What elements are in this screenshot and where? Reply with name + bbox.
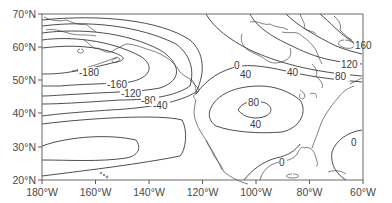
y-tick-label: 70°N — [13, 8, 36, 20]
x-tick-label: 60°W — [350, 186, 376, 198]
contour-labels: -180 -160 -120 -80 -40 0 40 80 40 40 160… — [78, 40, 374, 168]
x-tick-label: 160°W — [80, 186, 112, 198]
contour-label: 80 — [335, 71, 347, 82]
x-tick-label: 120°W — [187, 186, 219, 198]
coastlines — [44, 14, 362, 184]
contour-label: 120 — [341, 59, 358, 70]
contour-label: 40 — [240, 69, 252, 80]
contour-label: 40 — [287, 67, 299, 78]
x-axis: 180°W 160°W 140°W 120°W 100°W 80°W 60°W — [26, 180, 376, 198]
y-axis: 70°N 60°N 50°N 40°N 30°N 20°N — [13, 8, 42, 186]
contour-label: -180 — [79, 67, 99, 78]
contour-label: -120 — [121, 88, 141, 99]
y-tick-label: 20°N — [13, 174, 36, 186]
contours — [42, 14, 362, 180]
x-tick-label: 180°W — [26, 186, 58, 198]
x-tick-label: 80°W — [297, 186, 323, 198]
x-tick-label: 100°W — [240, 186, 272, 198]
x-tick-label: 140°W — [133, 186, 165, 198]
contour-label: 0 — [279, 157, 285, 168]
y-tick-label: 50°N — [13, 74, 36, 86]
y-tick-label: 30°N — [13, 141, 36, 153]
y-tick-label: 60°N — [13, 41, 36, 53]
contour-label: 80 — [248, 97, 260, 108]
contour-label: 160 — [355, 40, 372, 51]
y-tick-label: 40°N — [13, 107, 36, 119]
contour-label: 40 — [250, 119, 262, 130]
contour-map: -180 -160 -120 -80 -40 0 40 80 40 40 160… — [0, 0, 392, 203]
contour-label: 0 — [351, 137, 357, 148]
contour-label: -40 — [153, 100, 168, 111]
